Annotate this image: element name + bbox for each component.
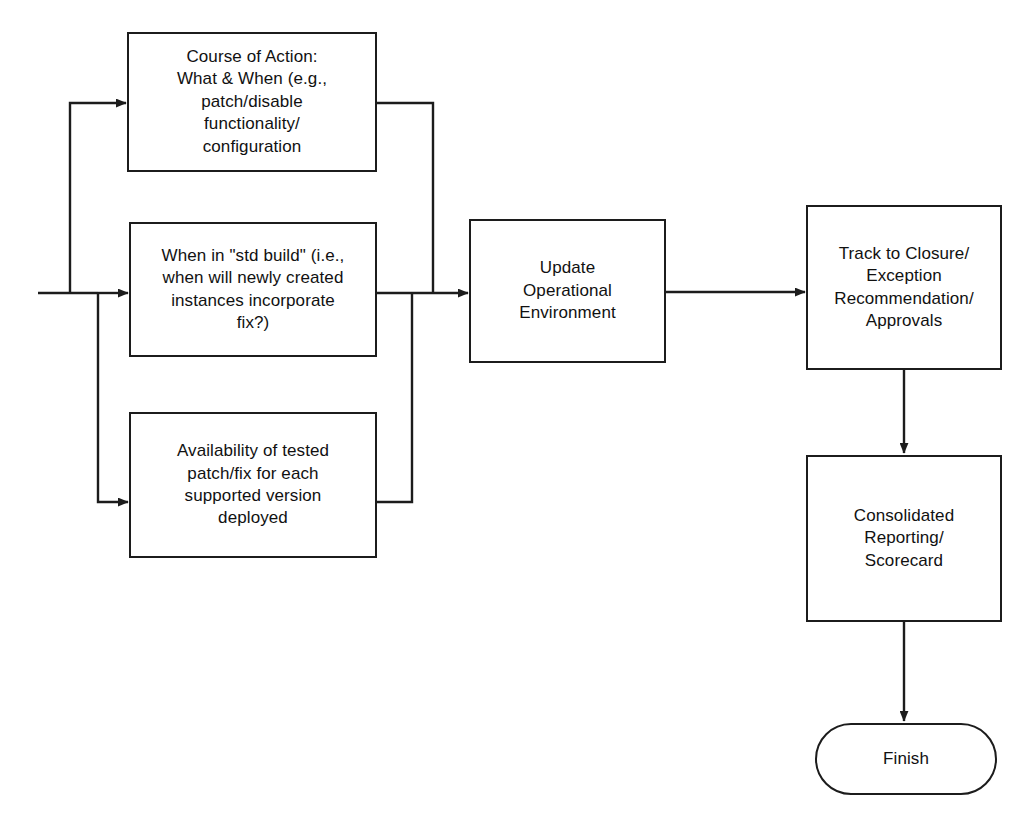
edge-availability-merge: [377, 293, 412, 502]
node-track-to-closure[interactable]: Track to Closure/ Exception Recommendati…: [806, 205, 1002, 370]
edge-to-course-of-action: [70, 103, 126, 293]
node-consolidated-reporting-label: Consolidated Reporting/ Scorecard: [814, 505, 994, 572]
node-update-operational-environment-label: Update Operational Environment: [477, 257, 658, 324]
flowchart-canvas: Course of Action: What & When (e.g., pat…: [0, 0, 1035, 821]
node-update-operational-environment[interactable]: Update Operational Environment: [469, 219, 666, 363]
node-course-of-action[interactable]: Course of Action: What & When (e.g., pat…: [127, 32, 377, 172]
node-course-of-action-label: Course of Action: What & When (e.g., pat…: [135, 46, 369, 158]
edge-course-of-action-merge: [377, 103, 433, 293]
node-track-to-closure-label: Track to Closure/ Exception Recommendati…: [814, 243, 994, 333]
edge-to-availability: [98, 293, 128, 502]
node-availability-tested-patch-label: Availability of tested patch/fix for eac…: [137, 440, 369, 530]
node-finish[interactable]: Finish: [815, 723, 997, 795]
node-std-build[interactable]: When in "std build" (i.e., when will new…: [129, 222, 377, 357]
node-finish-label: Finish: [823, 748, 989, 770]
node-availability-tested-patch[interactable]: Availability of tested patch/fix for eac…: [129, 412, 377, 558]
node-std-build-label: When in "std build" (i.e., when will new…: [137, 245, 369, 335]
node-consolidated-reporting[interactable]: Consolidated Reporting/ Scorecard: [806, 455, 1002, 622]
